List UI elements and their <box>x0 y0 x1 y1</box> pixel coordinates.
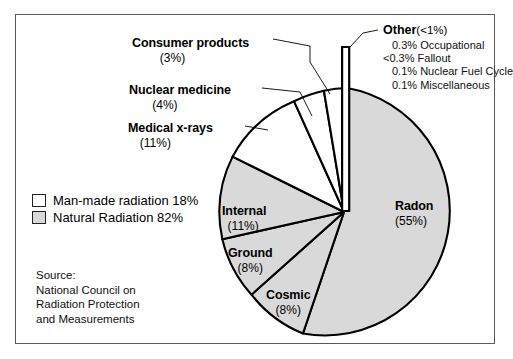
pie-slice-other[interactable] <box>342 47 349 211</box>
other-heading: Other(<1%) <box>383 23 513 37</box>
slice-label-radon-percent: (55%) <box>395 214 433 228</box>
source-line-2: National Council on <box>36 283 140 298</box>
slice-label-ground: Ground (8%) <box>228 243 273 275</box>
slice-label-ground-percent: (8%) <box>228 261 273 275</box>
chart-canvas: Consumer products (3%) Nuclear medicine … <box>0 0 513 359</box>
other-item-miscellaneous: 0.1% Miscellaneous <box>383 79 513 92</box>
legend-item-man-made[interactable]: Man-made radiation 18% <box>32 192 198 209</box>
slice-label-radon-name: Radon <box>395 199 433 213</box>
source-line-4: and Measurements <box>36 312 140 327</box>
callout-medical-xrays-label: Medical x-rays <box>128 121 213 135</box>
legend-swatch-man-made <box>32 194 46 207</box>
slice-label-radon: Radon (55%) <box>395 196 433 228</box>
source-line-1: Source: <box>36 268 140 283</box>
slice-label-cosmic-percent: (8%) <box>266 303 311 317</box>
legend: Man-made radiation 18% Natural Radiation… <box>32 192 198 226</box>
callout-nuclear-medicine: Nuclear medicine (4%) <box>129 80 231 112</box>
legend-label-man-made: Man-made radiation 18% <box>53 193 198 208</box>
legend-swatch-natural <box>32 211 46 224</box>
slice-label-ground-name: Ground <box>228 246 273 260</box>
source-note: Source: National Council on Radiation Pr… <box>36 268 140 326</box>
callout-medical-xrays: Medical x-rays (11%) <box>128 118 213 150</box>
slice-label-cosmic: Cosmic (8%) <box>266 285 311 317</box>
leader-line-consumer <box>273 39 330 94</box>
other-breakdown-list: 0.3% Occupational <0.3% Fallout 0.1% Nuc… <box>383 39 513 92</box>
slice-label-cosmic-name: Cosmic <box>266 288 311 302</box>
legend-label-natural: Natural Radiation 82% <box>53 210 183 225</box>
slice-label-internal: Internal (11%) <box>222 201 266 233</box>
other-breakdown-block: Other(<1%) 0.3% Occupational <0.3% Fallo… <box>383 23 513 92</box>
legend-item-natural[interactable]: Natural Radiation 82% <box>32 209 198 226</box>
callout-nuclear-medicine-label: Nuclear medicine <box>129 83 231 97</box>
callout-consumer-products-label: Consumer products <box>132 36 249 50</box>
other-item-nuclear-fuel-cycle: 0.1% Nuclear Fuel Cycle <box>383 65 513 78</box>
other-item-fallout: <0.3% Fallout <box>383 52 513 65</box>
other-item-occupational: 0.3% Occupational <box>383 39 513 52</box>
other-heading-label: Other <box>383 23 416 37</box>
callout-nuclear-medicine-percent: (4%) <box>129 98 201 112</box>
callout-medical-xrays-percent: (11%) <box>128 136 183 150</box>
other-heading-percent: (<1%) <box>416 24 447 36</box>
callout-consumer-products: Consumer products (3%) <box>132 33 249 65</box>
callout-consumer-products-percent: (3%) <box>132 51 213 65</box>
source-line-3: Radiation Protection <box>36 297 140 312</box>
slice-label-internal-name: Internal <box>222 204 266 218</box>
leader-line-other <box>350 30 378 47</box>
slice-label-internal-percent: (11%) <box>222 219 264 233</box>
